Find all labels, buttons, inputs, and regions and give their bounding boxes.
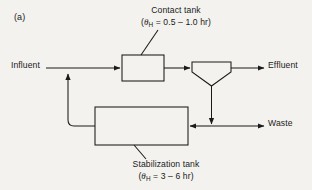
contact-tank-box: [122, 55, 164, 81]
stabilization-tank-detention-value: = 3 – 6 hr): [151, 171, 194, 181]
clarifier-funnel: [192, 62, 231, 86]
contact-tank-detention-value: = 0.5 – 1.0 hr): [153, 17, 211, 27]
stabilization-tank-box: [95, 107, 188, 145]
contact-tank-leader: [141, 30, 158, 55]
contact-tank-caption-name: Contact tank: [120, 6, 232, 16]
stabilization-tank-detention-time: (θH = 3 – 6 hr): [100, 171, 232, 182]
contact-tank-detention-time: (θH = 0.5 – 1.0 hr): [120, 17, 232, 28]
stabilization-tank-caption-name: Stabilization tank: [100, 160, 232, 170]
effluent-label: Effluent: [268, 61, 298, 71]
contact-tank-caption: Contact tank (θH = 0.5 – 1.0 hr): [120, 6, 232, 27]
recycle-line: [68, 74, 95, 126]
influent-label: Influent: [11, 61, 40, 71]
panel-tag: (a): [14, 12, 25, 22]
process-flow-diagram: (a) Influent Effluent Waste Contact tank…: [0, 0, 312, 190]
waste-label: Waste: [268, 119, 293, 129]
stabilization-tank-caption: Stabilization tank (θH = 3 – 6 hr): [100, 160, 232, 181]
stabilization-tank-leader: [134, 145, 146, 159]
